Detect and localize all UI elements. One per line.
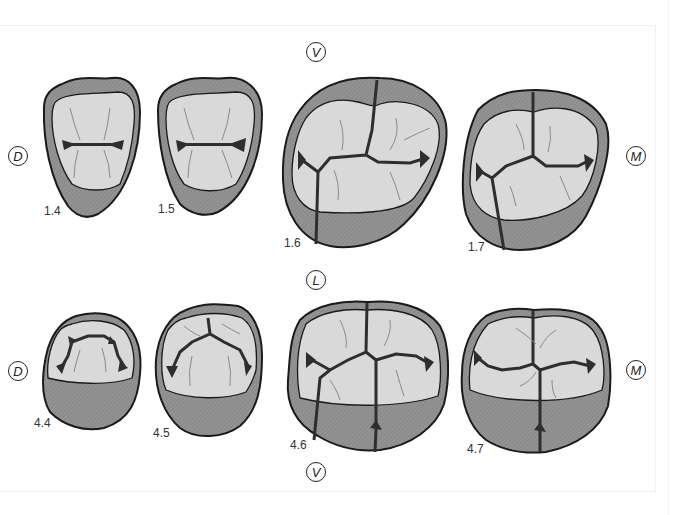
tooth-1-6 xyxy=(283,78,447,248)
label-mesial-lower: M xyxy=(626,360,646,380)
tooth-label-4-7: 4.7 xyxy=(467,442,484,456)
label-vestibular-top: V xyxy=(306,42,326,62)
label-lingual: L xyxy=(306,270,326,290)
label-vestibular-bottom: V xyxy=(306,462,326,482)
tooth-label-4-4: 4.4 xyxy=(34,416,51,430)
tooth-label-1-7: 1.7 xyxy=(468,240,485,254)
tooth-4-7 xyxy=(462,309,611,453)
tooth-label-1-4: 1.4 xyxy=(44,204,61,218)
tooth-label-1-6: 1.6 xyxy=(284,236,301,250)
label-distal-upper: D xyxy=(8,146,28,166)
tooth-4-6 xyxy=(288,302,448,452)
tooth-1-5 xyxy=(158,78,262,215)
label-distal-lower: D xyxy=(8,361,28,381)
label-mesial-upper: M xyxy=(626,146,646,166)
tooth-1-4 xyxy=(44,78,140,217)
tooth-label-1-5: 1.5 xyxy=(158,202,175,216)
tooth-4-4 xyxy=(43,313,140,429)
tooth-label-4-6: 4.6 xyxy=(290,438,307,452)
tooth-4-5 xyxy=(156,304,262,436)
teeth-diagram xyxy=(0,0,690,515)
tooth-label-4-5: 4.5 xyxy=(153,426,170,440)
tooth-1-7 xyxy=(463,90,608,250)
